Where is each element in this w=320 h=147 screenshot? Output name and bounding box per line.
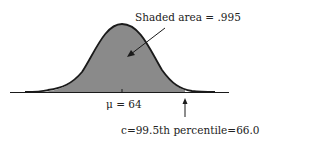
mean-label: μ = 64 [106,98,142,110]
shaded-area [40,24,185,92]
percentile-label: c=99.5th percentile=66.0 [121,124,260,136]
c-arrowhead [183,98,188,104]
shaded-area-label: Shaded area = .995 [135,11,241,23]
